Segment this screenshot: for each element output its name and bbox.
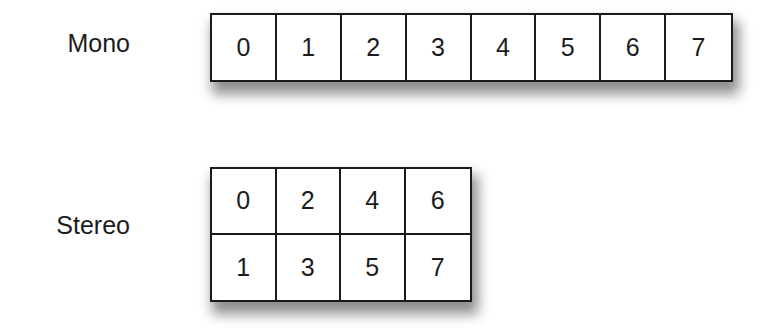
stereo-cell-left-channel: 0	[212, 169, 277, 235]
stereo-cell-right-channel: 7	[406, 235, 471, 301]
mono-cell: 1	[277, 15, 342, 80]
stereo-cell-right-channel: 5	[341, 235, 406, 301]
stereo-cell-right-channel: 3	[277, 235, 342, 301]
mono-cell: 5	[536, 15, 601, 80]
mono-cell: 6	[601, 15, 666, 80]
stereo-buffer-grid: 0 2 4 6 1 3 5 7	[210, 167, 472, 302]
mono-label: Mono	[0, 28, 130, 58]
mono-cell: 7	[666, 15, 731, 80]
stereo-cell-left-channel: 6	[406, 169, 471, 235]
mono-buffer-grid: 0 1 2 3 4 5 6 7	[210, 13, 733, 82]
stereo-cell-right-channel: 1	[212, 235, 277, 301]
stereo-cell-left-channel: 4	[341, 169, 406, 235]
mono-cell: 4	[472, 15, 537, 80]
mono-cell: 0	[212, 15, 277, 80]
mono-cell: 2	[342, 15, 407, 80]
mono-cell: 3	[407, 15, 472, 80]
stereo-label: Stereo	[0, 210, 130, 240]
stereo-cell-left-channel: 2	[277, 169, 342, 235]
